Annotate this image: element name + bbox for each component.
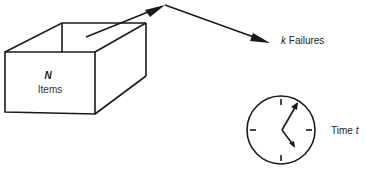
arrowhead-icon [145,5,165,17]
time-label: Time t [331,125,358,136]
box-icon [5,23,146,114]
failures-label: k Failures [281,35,324,46]
clock-icon [247,96,315,164]
item-count-symbol: N [38,70,58,81]
clock-hand-head-icon [289,141,295,148]
failures-text: Failures [289,35,325,46]
time-text: Time [331,125,353,136]
arrowhead-icon [250,33,270,43]
failure-count-symbol: k [281,35,286,46]
items-label: Items [30,84,70,95]
time-symbol: t [356,125,359,136]
